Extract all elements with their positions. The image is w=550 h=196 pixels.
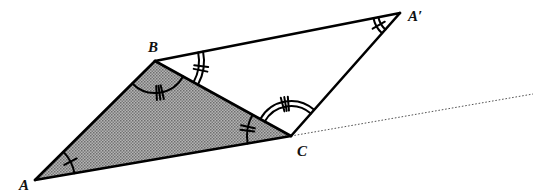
label-b: B	[147, 39, 158, 55]
angle-tick	[194, 65, 208, 67]
angle-arc	[194, 53, 199, 83]
dotted-extension-ray	[291, 94, 533, 136]
label-a: A	[18, 177, 29, 193]
angle-tick	[194, 69, 208, 72]
label-c: C	[297, 143, 308, 159]
angle-tick	[156, 86, 157, 100]
shaded-triangle-abc	[35, 61, 291, 180]
angle-tick	[288, 97, 289, 111]
label-a-prime: A′	[407, 8, 422, 24]
angle-mark-b-3	[194, 52, 209, 85]
geometry-figure: A B C A′	[0, 0, 550, 196]
